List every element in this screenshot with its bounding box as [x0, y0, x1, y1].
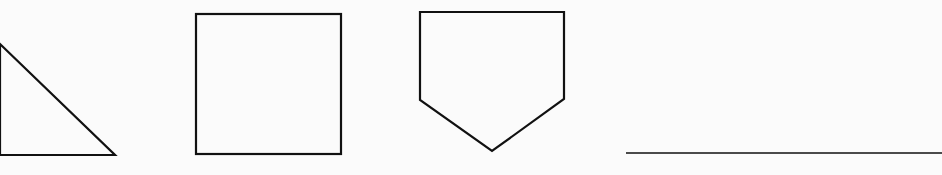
- worksheet-page: [0, 0, 942, 175]
- shapes-figure: [0, 0, 942, 175]
- square-shape: [196, 14, 341, 154]
- pentagon-shape: [420, 12, 564, 151]
- triangle-shape: [0, 44, 115, 155]
